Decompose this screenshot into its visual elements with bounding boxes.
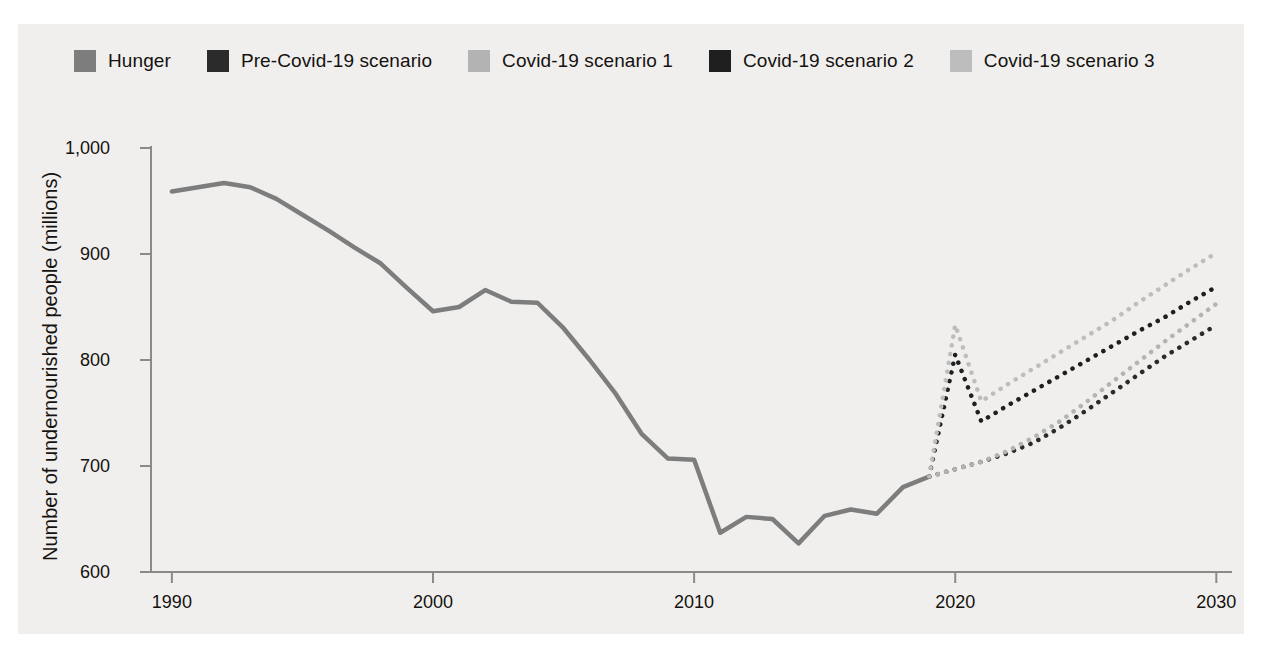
x-tick-label: 2020 [915,592,995,613]
x-tick-label: 2010 [654,592,734,613]
x-tick-label: 2000 [393,592,473,613]
y-axis-label: Number of undernourished people (million… [39,132,62,602]
x-tick-label: 1990 [132,592,212,613]
x-tick-label: 2030 [1176,592,1256,613]
x-axis-ticks: 19902000201020202030 [0,0,1262,667]
figure-root: HungerPre-Covid-19 scenarioCovid-19 scen… [0,0,1262,667]
